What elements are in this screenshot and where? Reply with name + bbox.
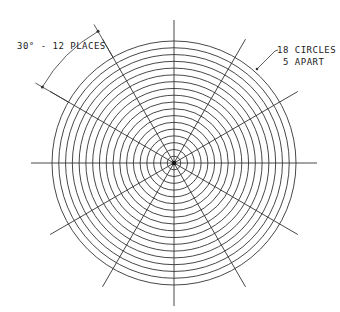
center-point bbox=[172, 161, 176, 165]
circles-spacing-label: 5 APART bbox=[283, 57, 324, 67]
arrow-head bbox=[97, 30, 100, 33]
extension-line bbox=[35, 83, 68, 102]
angle-dimension-arc bbox=[42, 31, 98, 87]
arrow-head bbox=[41, 86, 44, 89]
leader-line bbox=[257, 50, 278, 69]
circles-count-label: 18 CIRCLES bbox=[277, 45, 336, 55]
leader-arrow bbox=[256, 68, 259, 71]
angle-dimension-label: 30° - 12 PLACES bbox=[17, 41, 106, 51]
